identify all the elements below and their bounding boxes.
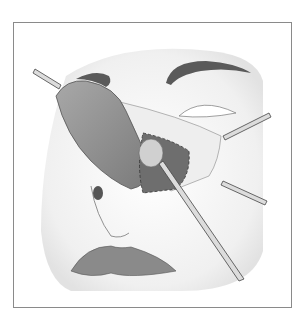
nostril bbox=[93, 186, 103, 200]
globe bbox=[139, 139, 163, 167]
surgical-illustration bbox=[14, 23, 292, 308]
illustration-frame bbox=[13, 22, 292, 308]
